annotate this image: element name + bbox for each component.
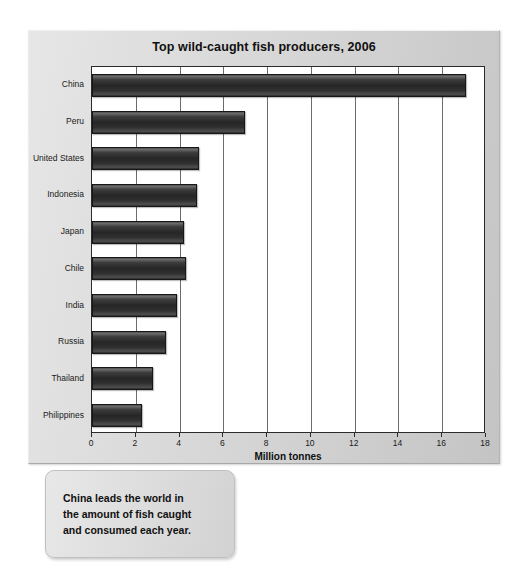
plot-area [91,66,485,433]
x-tick-mark-12 [354,433,355,437]
x-tick-label-2: 2 [132,438,137,448]
x-tick-mark-8 [266,433,267,437]
bar-row [92,397,142,434]
x-tick-label-8: 8 [264,438,269,448]
bar-chile [92,257,186,280]
bar-philippines [92,404,142,427]
bar-row [92,324,166,361]
chart-panel: Top wild-caught fish producers, 2006 Chi… [28,30,500,464]
bar-peru [92,111,245,134]
x-tick-label-4: 4 [176,438,181,448]
y-tick-label-chile: Chile [65,263,84,273]
bar-japan [92,221,184,244]
x-tick-mark-16 [441,433,442,437]
bar-indonesia [92,184,197,207]
x-tick-label-14: 14 [393,438,402,448]
chart-title: Top wild-caught fish producers, 2006 [29,40,499,54]
y-axis-labels: ChinaPeruUnited StatesIndonesiaJapanChil… [29,66,89,433]
caption-callout: China leads the world in the amount of f… [45,470,235,558]
bar-row [92,361,153,398]
bar-row [92,177,197,214]
x-tick-label-0: 0 [89,438,94,448]
y-tick-label-india: India [66,300,84,310]
bar-china [92,74,466,97]
x-tick-label-6: 6 [220,438,225,448]
y-tick-label-indonesia: Indonesia [47,189,84,199]
y-tick-label-united-states: United States [33,153,84,163]
x-tick-mark-18 [485,433,486,437]
x-tick-label-18: 18 [480,438,489,448]
bar-series [92,67,484,432]
bar-row [92,67,466,104]
bar-united-states [92,147,199,170]
x-tick-mark-14 [397,433,398,437]
caption-text: China leads the world in the amount of f… [63,490,222,538]
x-tick-mark-4 [179,433,180,437]
y-tick-label-japan: Japan [61,226,84,236]
x-tick-mark-2 [135,433,136,437]
y-tick-label-philippines: Philippines [43,410,84,420]
x-tick-mark-10 [310,433,311,437]
y-tick-label-russia: Russia [58,336,84,346]
y-tick-label-china: China [62,79,84,89]
x-axis-title: Million tonnes [91,451,485,462]
bar-row [92,251,186,288]
y-tick-label-peru: Peru [66,116,84,126]
bar-row [92,214,184,251]
x-tick-label-12: 12 [349,438,358,448]
bar-row [92,287,177,324]
bar-russia [92,331,166,354]
x-tick-mark-0 [91,433,92,437]
bar-row [92,104,245,141]
x-tick-mark-6 [222,433,223,437]
y-tick-label-thailand: Thailand [51,373,84,383]
bar-row [92,140,199,177]
x-tick-label-10: 10 [305,438,314,448]
x-tick-label-16: 16 [436,438,445,448]
bar-india [92,294,177,317]
bar-thailand [92,367,153,390]
